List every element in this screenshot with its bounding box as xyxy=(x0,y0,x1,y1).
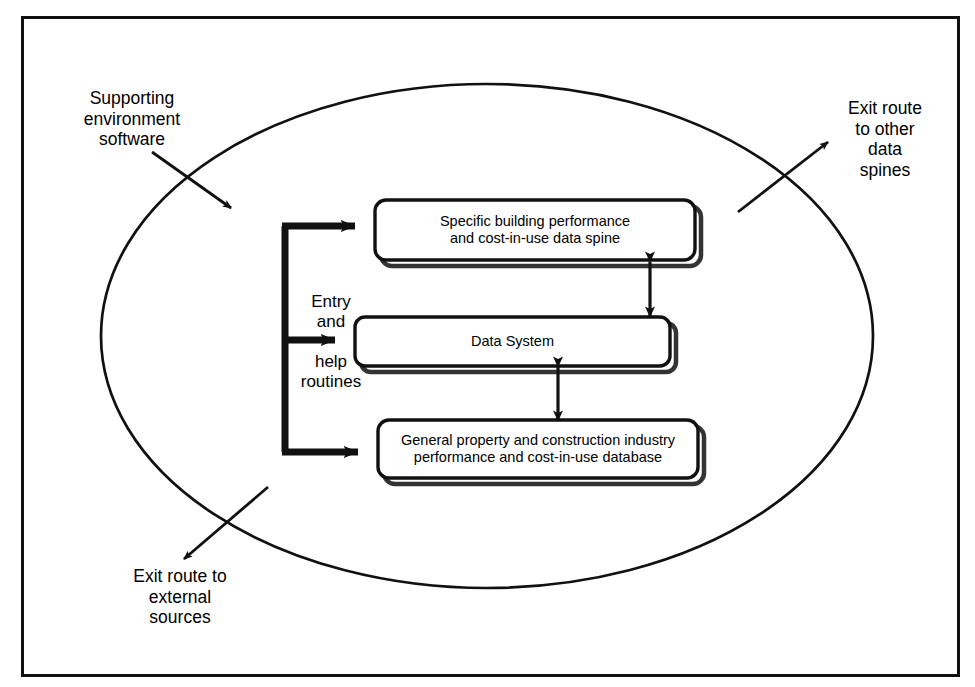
specific-building-data-spine-label-wrap: Specific building performance and cost-i… xyxy=(375,200,695,260)
help-routines-label: help routines xyxy=(278,352,384,392)
data-system-label-wrap: Data System xyxy=(355,317,670,366)
data-system-label: Data System xyxy=(355,333,670,350)
annotation-exit-route-other-data-spines: Exit route to other data spines xyxy=(820,98,950,181)
specific-building-data-spine-label: Specific building performance and cost-i… xyxy=(375,213,695,247)
annotation-supporting-environment-software: Supporting environment software xyxy=(52,88,212,150)
general-property-database-label: General property and construction indust… xyxy=(378,432,698,466)
entry-and-label: Entry and xyxy=(292,292,370,332)
general-property-database-label-wrap: General property and construction indust… xyxy=(378,420,698,478)
diagram-canvas: Supporting environment software Exit rou… xyxy=(0,0,975,687)
exit-route-external-arrow xyxy=(184,487,268,559)
annotation-exit-route-external-sources: Exit route to external sources xyxy=(90,566,270,628)
